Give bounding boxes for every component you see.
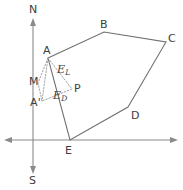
- compass-label-south: S: [29, 175, 36, 186]
- region-label-e-d-subscript: D: [61, 94, 67, 103]
- region-label-e-l-base: E: [57, 63, 65, 76]
- west-arrowhead-icon: [4, 137, 12, 143]
- main-polygon-group: [48, 32, 166, 140]
- region-label-e-d: ED: [53, 90, 67, 101]
- horizontal-axis-group: [4, 137, 178, 143]
- east-arrowhead-icon: [170, 137, 178, 143]
- vertex-label-m: M: [29, 76, 39, 87]
- region-label-e-d-base: E: [53, 89, 61, 102]
- vertex-label-b: B: [100, 19, 108, 30]
- vertex-label-a: A: [43, 45, 51, 56]
- vertex-label-p: P: [74, 83, 81, 94]
- south-arrowhead-icon: [30, 166, 36, 174]
- region-label-e-l-subscript: L: [65, 68, 70, 77]
- diagram-vector-layer: [0, 0, 183, 190]
- diagram-canvas: N S A B C D E M A' P EL ED: [0, 0, 183, 190]
- vertex-label-e: E: [65, 145, 72, 156]
- compass-label-north: N: [29, 4, 37, 15]
- region-label-e-l: EL: [57, 64, 70, 75]
- north-arrowhead-icon: [30, 18, 36, 26]
- main-polygon-abcde: [48, 32, 166, 140]
- vertex-label-c: C: [168, 33, 176, 44]
- vertex-label-a-prime: A': [30, 97, 41, 108]
- vertex-label-d: D: [131, 110, 140, 121]
